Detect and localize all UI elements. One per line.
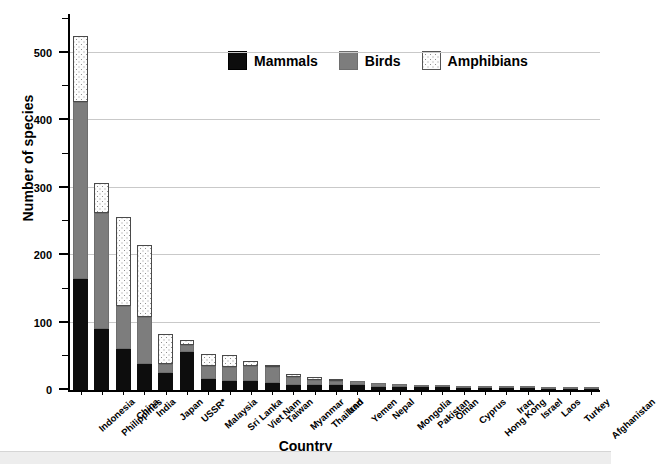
y-axis-tick [59,186,70,188]
bar-segment-birds [116,306,131,349]
bar-segment-birds [499,386,514,388]
bar-china[interactable] [116,217,131,390]
x-axis-tick [315,390,316,395]
bar-segment-amph [180,340,195,345]
bar-segment-birds [158,364,173,373]
y-axis-tick-label: 400 [34,114,52,126]
bar-segment-birds [180,345,195,351]
bar-viet-nam[interactable] [243,361,258,390]
bar-philippines[interactable] [94,183,109,390]
y-axis-tick-label: 100 [34,317,52,329]
x-axis-tick [549,390,550,395]
y-axis-minor-tick [62,18,70,19]
bar-ussr[interactable] [180,340,195,390]
y-axis-tick [59,51,70,53]
plot-area: 0100200300400500 [68,14,600,392]
y-axis-tick-label: 500 [34,47,52,59]
x-axis-tick [187,390,188,395]
bar-segment-amph [286,374,301,377]
bar-segment-birds [584,387,599,389]
bar-segment-mammals [73,279,88,390]
bar-segment-birds [414,385,429,387]
x-axis-tick [570,390,571,395]
x-axis-tick-label: Afghanistan [609,396,657,441]
bar-segment-amph [265,365,280,367]
bar-segment-mammals [137,364,152,390]
x-axis-tick [251,390,252,395]
bar-segment-birds [94,213,109,328]
y-axis-title: Number of species [20,78,36,238]
bar-segment-mammals [116,349,131,390]
x-axis-tick [123,390,124,395]
bar-sri-lanka[interactable] [222,355,237,390]
bar-segment-birds [73,102,88,278]
x-axis-tick [506,390,507,395]
x-axis-tick-label: Laos [558,396,582,419]
y-axis-minor-tick [62,85,70,86]
bar-segment-amph [201,354,216,366]
bar-segment-birds [265,367,280,383]
y-axis-minor-tick [62,153,70,154]
bar-segment-birds [371,383,386,387]
window-bottom-strip [0,451,611,464]
y-axis-tick [59,118,70,120]
x-axis-tick [336,390,337,395]
y-axis-tick [59,321,70,323]
x-axis-tick [144,390,145,395]
bar-malaysia[interactable] [201,354,216,390]
bar-iran[interactable] [329,379,344,390]
bar-indonesia[interactable] [73,36,88,390]
bar-segment-birds [435,385,450,387]
gridline [70,52,600,53]
bar-segment-amph [243,361,258,366]
bar-segment-birds [350,381,365,385]
bar-segment-amph [329,379,344,381]
bar-segment-birds [541,387,556,389]
x-axis-tick [81,390,82,395]
y-axis-minor-tick [62,220,70,221]
bar-segment-birds [137,317,152,364]
x-axis-tick [230,390,231,395]
bar-japan[interactable] [158,334,173,390]
x-axis-tick [400,390,401,395]
bar-segment-mammals [222,381,237,390]
gridline [70,187,600,188]
bar-segment-birds [201,366,216,380]
bar-segment-birds [520,386,535,388]
bar-yemen[interactable] [350,381,365,390]
bar-segment-mammals [243,381,258,390]
bar-taiwan[interactable] [265,365,280,390]
x-axis-tick [528,390,529,395]
bar-segment-mammals [158,373,173,390]
bar-india[interactable] [137,245,152,390]
bar-segment-birds [286,377,301,384]
bar-segment-birds [478,386,493,388]
y-axis-tick [59,388,70,390]
bar-nepal[interactable] [371,383,386,390]
bar-segment-amph [307,377,322,380]
x-axis-tick [485,390,486,395]
bar-segment-birds [456,386,471,388]
bar-segment-birds [329,381,344,385]
x-axis-tick [421,390,422,395]
x-axis-tick [442,390,443,395]
bar-segment-amph [116,217,131,306]
x-axis-tick [379,390,380,395]
bar-thailand[interactable] [307,377,322,391]
bar-segment-amph [222,355,237,367]
bar-segment-mammals [201,379,216,390]
bar-segment-birds [563,387,578,389]
y-axis-tick-label: 300 [34,182,52,194]
bar-myanmar[interactable] [286,374,301,390]
x-axis-tick [166,390,167,395]
y-axis-minor-tick [62,355,70,356]
bar-segment-birds [243,366,258,381]
x-axis-tick [208,390,209,395]
bar-segment-birds [222,367,237,381]
y-axis-minor-tick [62,288,70,289]
x-axis-tick-label: Turkey [582,396,612,425]
bar-segment-mammals [265,383,280,390]
bar-segment-mammals [94,329,109,390]
y-axis-tick-label: 200 [34,249,52,261]
bar-segment-mammals [180,352,195,390]
